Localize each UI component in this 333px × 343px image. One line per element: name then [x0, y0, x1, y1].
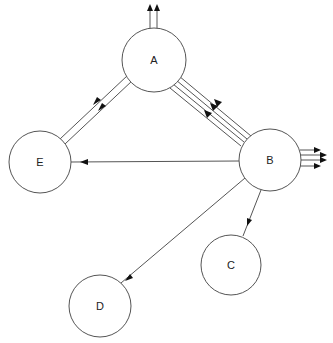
edges-b-to-right: [300, 147, 327, 169]
arrow-right-icon: [320, 152, 327, 158]
node-d-label: D: [96, 300, 104, 312]
arrow-up-icon: [147, 4, 153, 11]
edges-a-to-e: [60, 75, 133, 144]
edges-a-to-top: [147, 4, 160, 29]
node-b-label: B: [266, 154, 273, 166]
arrow-icon: [125, 274, 133, 281]
arrow-right-icon: [314, 163, 321, 169]
graph-diagram: A B C D E: [0, 0, 333, 343]
node-a-label: A: [150, 54, 158, 66]
edges-b-to-a: [170, 76, 251, 146]
node-b: B: [239, 129, 301, 191]
node-d: D: [69, 275, 131, 337]
arrow-left-icon: [80, 159, 88, 165]
edge-b-to-e: [71, 159, 239, 165]
node-c: C: [201, 235, 261, 295]
node-c-label: C: [227, 259, 235, 271]
edge-b-to-c: [243, 190, 261, 236]
node-e-label: E: [36, 156, 43, 168]
node-e: E: [9, 131, 71, 193]
node-a: A: [122, 28, 186, 92]
arrow-right-icon: [314, 147, 321, 153]
arrow-down-icon: [247, 218, 252, 226]
arrow-up-icon: [154, 4, 160, 11]
arrow-right-icon: [320, 157, 327, 163]
